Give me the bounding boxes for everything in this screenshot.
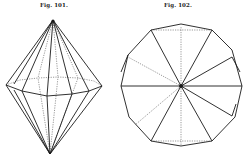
- figure-102-polygon: [121, 24, 242, 146]
- figure-101-bipyramid: [6, 19, 102, 154]
- figures-drawing: [0, 0, 243, 163]
